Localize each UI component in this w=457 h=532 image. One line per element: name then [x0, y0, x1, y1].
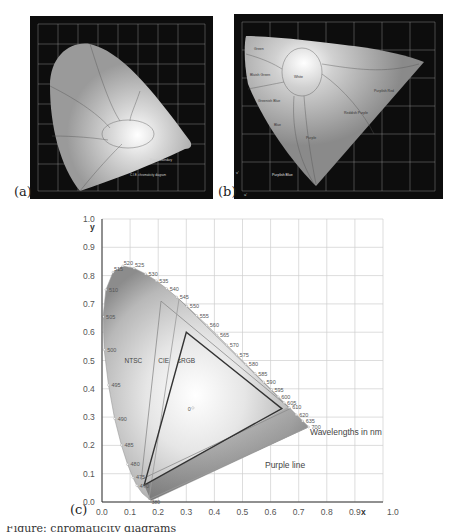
- svg-text:0: 0: [188, 406, 191, 412]
- svg-text:505: 505: [106, 314, 115, 320]
- svg-text:0.1: 0.1: [83, 469, 95, 479]
- svg-text:595: 595: [274, 387, 283, 393]
- svg-text:525: 525: [135, 262, 144, 268]
- figure-caption-fragment: Figure: chromaticity diagrams: [0, 526, 457, 532]
- svg-text:sRGB: sRGB: [178, 357, 195, 364]
- region-label-purplish-blue: Purplish Blue: [272, 173, 293, 177]
- svg-text:0.3: 0.3: [180, 507, 192, 517]
- svg-text:470: 470: [140, 483, 149, 489]
- svg-text:0.6: 0.6: [265, 507, 277, 517]
- svg-text:0.8: 0.8: [83, 271, 95, 281]
- svg-text:495: 495: [111, 382, 120, 388]
- cie-xy-dark-diagram: C.I.E. chromaticity diagram Purple bound…: [30, 16, 213, 199]
- svg-text:0.1: 0.1: [124, 507, 136, 517]
- svg-text:y: y: [90, 222, 95, 232]
- svg-text:0.7: 0.7: [83, 299, 95, 309]
- svg-text:0.5: 0.5: [237, 507, 249, 517]
- region-label-purple: Purple: [306, 136, 316, 140]
- svg-text:620: 620: [299, 412, 308, 418]
- svg-text:560: 560: [210, 322, 219, 328]
- svg-text:550: 550: [190, 303, 199, 309]
- svg-text:Wavelengths in nm: Wavelengths in nm: [310, 427, 382, 437]
- svg-text:CIE: CIE: [158, 357, 170, 364]
- svg-text:0.8: 0.8: [321, 507, 333, 517]
- panel-a: C.I.E. chromaticity diagram Purple bound…: [30, 16, 213, 199]
- svg-text:520: 520: [124, 260, 133, 266]
- svg-text:0.0: 0.0: [96, 507, 108, 517]
- svg-text:0.9: 0.9: [83, 242, 95, 252]
- svg-text:0.7: 0.7: [293, 507, 305, 517]
- svg-text:555: 555: [200, 313, 209, 319]
- svg-text:570: 570: [230, 342, 239, 348]
- panel-label-a: (a): [14, 184, 32, 199]
- svg-text:475: 475: [136, 474, 145, 480]
- axis-label-u: u': [244, 192, 247, 197]
- svg-text:0.4: 0.4: [208, 507, 220, 517]
- svg-text:x: x: [361, 507, 366, 517]
- svg-text:530: 530: [149, 271, 158, 277]
- region-label-reddish-purple: Reddish Purple: [344, 111, 368, 115]
- svg-text:565: 565: [220, 332, 229, 338]
- svg-text:515: 515: [114, 266, 123, 272]
- svg-text:490: 490: [118, 416, 127, 422]
- svg-text:Purple boundary: Purple boundary: [150, 158, 173, 162]
- region-label-purplish-red: Purplish Red: [374, 89, 394, 93]
- panel-c: 4704754804854904955005055105155205255305…: [0, 205, 457, 525]
- region-label-white: White: [294, 75, 303, 79]
- svg-text:610: 610: [292, 404, 301, 410]
- svg-text:0.9: 0.9: [349, 507, 361, 517]
- svg-text:510: 510: [109, 287, 118, 293]
- svg-text:C.I.E. chromaticity diagram: C.I.E. chromaticity diagram: [130, 173, 167, 177]
- svg-text:485: 485: [124, 442, 133, 448]
- svg-text:0.4: 0.4: [83, 384, 95, 394]
- svg-text:575: 575: [240, 352, 249, 358]
- panel-label-b: (b): [218, 184, 236, 199]
- panel-label-c: (c): [70, 502, 87, 517]
- svg-text:580: 580: [249, 361, 258, 367]
- svg-text:0.6: 0.6: [83, 327, 95, 337]
- svg-text:500: 500: [107, 347, 116, 353]
- svg-text:0.5: 0.5: [83, 356, 95, 366]
- svg-text:585: 585: [258, 371, 267, 377]
- svg-text:540: 540: [170, 286, 179, 292]
- axis-label-v: v': [236, 170, 239, 175]
- svg-text:1.0: 1.0: [387, 507, 399, 517]
- svg-text:NTSC: NTSC: [124, 357, 142, 364]
- svg-text:535: 535: [159, 278, 168, 284]
- region-label-bluish-green: Bluish Green: [250, 73, 270, 77]
- svg-text:545: 545: [180, 294, 189, 300]
- cie-uv-dark-diagram: Green Bluish Green Greenish Blue Blue Pu…: [234, 14, 443, 199]
- svg-text:480: 480: [131, 461, 140, 467]
- svg-text:590: 590: [267, 379, 276, 385]
- svg-text:0.3: 0.3: [83, 412, 95, 422]
- region-label-green: Green: [254, 47, 264, 51]
- svg-text:0.2: 0.2: [152, 507, 164, 517]
- svg-text:Purple line: Purple line: [265, 460, 305, 470]
- svg-text:0.2: 0.2: [83, 440, 95, 450]
- panel-b: Green Bluish Green Greenish Blue Blue Pu…: [234, 14, 443, 199]
- cie-xy-gamut-chart: 4704754804854904955005055105155205255305…: [0, 205, 457, 525]
- region-label-greenish-blue: Greenish Blue: [258, 99, 280, 103]
- region-label-blue: Blue: [274, 123, 281, 127]
